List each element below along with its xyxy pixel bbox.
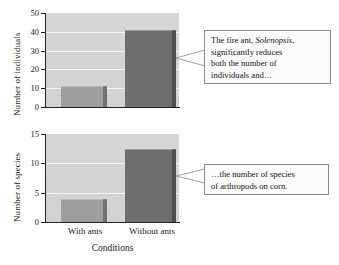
- callout-top-line4: individuals and…: [211, 70, 272, 80]
- x-ticklabel-without-ants: Without ants: [112, 226, 192, 236]
- y-tick-5-bottom: [41, 193, 45, 194]
- plot-area-bottom: [46, 134, 179, 222]
- callout-top-line2: significantly reduces: [211, 47, 282, 57]
- figure-arthropod-ant-study: Number of individuals 50 40 30 20 10 0 N…: [0, 0, 339, 265]
- y-ticklabel-top-2: 20: [17, 65, 39, 74]
- y-axis-line-top: [45, 13, 46, 108]
- y-ticklabel-bottom-0: 0: [17, 218, 39, 227]
- callout-bottom-line2: of arthropods on corn.: [211, 181, 287, 191]
- y-tick-50-top: [41, 13, 45, 14]
- bar-bottom-with-ants: [61, 199, 107, 223]
- x-axis-line-top: [45, 107, 180, 108]
- y-tick-0-top: [41, 107, 45, 108]
- callout-top-line1b: ,: [292, 35, 294, 45]
- plot-area-top: [46, 13, 179, 107]
- bar-top-with-ants: [61, 86, 107, 107]
- callout-species: …the number of species of arthropods on …: [204, 164, 329, 195]
- y-tick-10-top: [41, 88, 45, 89]
- y-ticklabel-top-0: 0: [17, 103, 39, 112]
- y-ticklabel-top-4: 40: [17, 28, 39, 37]
- callout-top-line1a: The fire ant,: [211, 35, 255, 45]
- callout-top-species: Solenopsis: [255, 35, 292, 45]
- y-ticklabel-top-5: 50: [17, 9, 39, 18]
- y-tick-15-bottom: [41, 134, 45, 135]
- y-tick-10-bottom: [41, 163, 45, 164]
- callout-tail-top-icon: [176, 46, 206, 70]
- x-axis-title: Conditions: [46, 243, 179, 253]
- y-ticklabel-bottom-2: 10: [17, 159, 39, 168]
- x-axis-line-bottom: [45, 222, 180, 223]
- y-ticklabel-bottom-1: 5: [17, 189, 39, 198]
- y-tick-20-top: [41, 69, 45, 70]
- y-ticklabel-top-1: 10: [17, 84, 39, 93]
- callout-top-line3: both the number of: [211, 58, 277, 68]
- bar-bottom-without-ants: [125, 149, 176, 222]
- y-ticklabel-bottom-3: 15: [17, 130, 39, 139]
- callout-individuals: The fire ant, Solenopsis, significantly …: [204, 30, 331, 84]
- callout-bottom-line1: …the number of species: [211, 169, 295, 179]
- y-tick-40-top: [41, 32, 45, 33]
- y-tick-30-top: [41, 51, 45, 52]
- x-ticklabel-with-ants: With ants: [48, 226, 122, 236]
- y-ticklabel-top-3: 30: [17, 47, 39, 56]
- y-axis-line-bottom: [45, 134, 46, 223]
- y-tick-0-bottom: [41, 222, 45, 223]
- callout-tail-bottom-icon: [176, 166, 206, 186]
- bar-top-without-ants: [125, 30, 176, 107]
